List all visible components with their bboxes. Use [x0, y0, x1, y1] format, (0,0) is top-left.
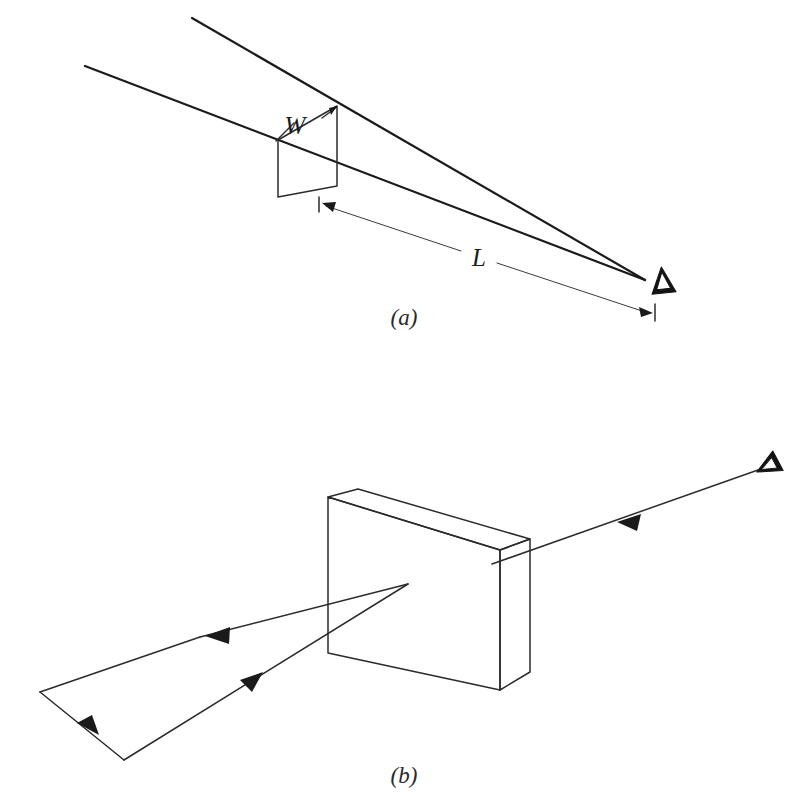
slab-front-face	[328, 497, 500, 690]
incoming-ray	[492, 470, 758, 564]
width-label: W	[285, 112, 308, 139]
frustum-lower-ray	[85, 66, 645, 280]
return-ray-fold	[40, 692, 124, 760]
slab-right-face	[500, 539, 530, 690]
frustum-upper-ray	[192, 18, 645, 280]
eye-icon	[649, 266, 676, 294]
length-arrowhead-right	[639, 307, 653, 317]
figure-root: W L (a)	[0, 0, 796, 796]
incoming-ray-arrowhead	[617, 514, 641, 531]
reflected-ray-upper	[200, 584, 408, 637]
width-leader-arrowhead	[329, 106, 337, 115]
length-dimension-line-right	[497, 263, 648, 313]
eye-icon	[752, 451, 784, 482]
panel-a-caption: (a)	[391, 305, 418, 330]
reflected-ray-upper-arrowhead	[205, 627, 230, 644]
panel-b-caption: (b)	[391, 763, 418, 788]
return-ray	[124, 584, 408, 760]
return-ray-arrowhead	[240, 672, 263, 692]
panel-b-group: (b)	[40, 451, 783, 788]
slab-top-face	[328, 489, 530, 550]
length-label: L	[471, 244, 486, 271]
length-dimension-line-left	[326, 206, 461, 251]
length-arrowhead-left	[322, 202, 336, 212]
panel-a-group: W L (a)	[85, 18, 676, 330]
ray-diagram-canvas: W L (a)	[0, 0, 796, 796]
reflected-ray-upper-tail	[40, 637, 200, 692]
